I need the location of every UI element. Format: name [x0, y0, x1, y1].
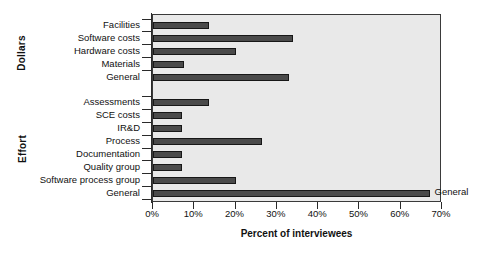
- y-axis-tick: [142, 122, 152, 123]
- bar: [153, 35, 293, 42]
- category-label: IR&D: [117, 122, 140, 134]
- bar: [153, 48, 236, 55]
- category-label: SCE costs: [96, 109, 140, 121]
- bar: [153, 74, 289, 81]
- y-axis-tick: [142, 199, 152, 200]
- x-axis-tick-label: 50%: [338, 208, 378, 219]
- y-axis-tick: [142, 186, 152, 187]
- y-axis-tick: [142, 173, 152, 174]
- x-axis-tick-label: 20%: [215, 208, 255, 219]
- bar: [153, 177, 236, 184]
- y-axis-tick: [142, 148, 152, 149]
- x-axis-tick-label: 0%: [132, 208, 172, 219]
- x-axis-tick-label: 30%: [256, 208, 296, 219]
- bar: [153, 164, 182, 171]
- y-axis-tick: [142, 109, 152, 110]
- bar: [153, 190, 430, 197]
- bar: [153, 61, 184, 68]
- y-axis-tick: [142, 135, 152, 136]
- bar: [153, 151, 182, 158]
- category-label: Hardware costs: [74, 45, 140, 57]
- x-axis-tick-label: 40%: [297, 208, 337, 219]
- bar-chart: Dollars Effort FacilitiesSoftware costsH…: [0, 0, 487, 255]
- category-label: Materials: [101, 58, 140, 70]
- y-axis-tick: [142, 160, 152, 161]
- category-label: Process: [106, 135, 140, 147]
- bar: [153, 138, 262, 145]
- bar: [153, 22, 209, 29]
- x-axis-tick-label: 70%: [421, 208, 461, 219]
- x-axis-title: Percent of interviewees: [152, 228, 441, 239]
- category-label: General: [106, 187, 140, 199]
- bar: [153, 112, 182, 119]
- category-label: Quality group: [83, 161, 140, 173]
- bar: [153, 99, 209, 106]
- category-label: Assessments: [84, 96, 141, 108]
- y-axis-tick: [142, 70, 152, 71]
- bar-end-annotation: General: [435, 186, 469, 197]
- y-axis-tick: [142, 96, 152, 97]
- category-label: Documentation: [76, 148, 140, 160]
- plot-area: [152, 14, 441, 202]
- y-axis-tick: [142, 44, 152, 45]
- y-axis-tick: [142, 57, 152, 58]
- bar: [153, 125, 182, 132]
- bars-container: [153, 15, 440, 201]
- x-axis-tick-label: 60%: [380, 208, 420, 219]
- category-label: Software costs: [78, 32, 140, 44]
- y-axis-tick: [142, 19, 152, 20]
- category-label: Facilities: [103, 19, 140, 31]
- group-axis-label-dollars: Dollars: [16, 23, 28, 83]
- y-axis-tick: [142, 31, 152, 32]
- category-label: General: [106, 71, 140, 83]
- category-axis-labels: FacilitiesSoftware costsHardware costsMa…: [34, 14, 146, 202]
- category-label: Software process group: [40, 174, 140, 186]
- x-axis-tick-label: 10%: [173, 208, 213, 219]
- group-axis-label-effort: Effort: [17, 119, 29, 179]
